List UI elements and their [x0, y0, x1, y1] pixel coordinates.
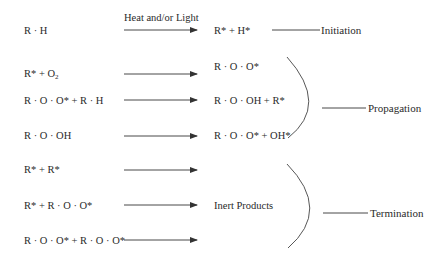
product-r6: Inert Products [214, 200, 273, 212]
reactant-r3: R · O · O* + R · H [24, 95, 103, 107]
reactant-r5: R* + R* [24, 164, 60, 176]
product-r1: R* + H* [214, 25, 250, 37]
termination-bracket [287, 164, 310, 248]
reactant-r2: R* + O2 [24, 68, 59, 80]
stage-label-propagation: Propagation [368, 102, 421, 114]
product-r2: R · O · O* [214, 61, 259, 73]
reactant-r7: R · O · O* + R · O · O* [24, 235, 125, 247]
propagation-bracket [287, 57, 309, 138]
reaction-arrows [124, 30, 197, 240]
product-r4: R · O · O* + OH* [214, 130, 291, 142]
arrow-condition-label: Heat and/or Light [124, 12, 199, 24]
reactant-r4: R · O · OH [24, 130, 71, 142]
stage-label-initiation: Initiation [321, 24, 361, 36]
reactant-r1: R · H [24, 25, 47, 37]
stage-label-termination: Termination [370, 207, 424, 219]
product-r3: R · O · OH + R* [214, 95, 285, 107]
reactant-r6: R* + R · O · O* [24, 200, 92, 212]
